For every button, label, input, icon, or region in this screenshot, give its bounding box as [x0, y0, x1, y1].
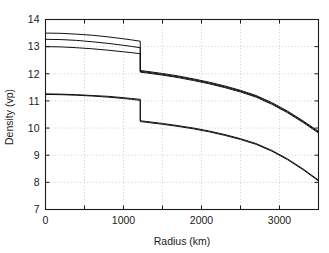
x-tick-label: 0: [43, 214, 49, 226]
y-tick-label: 14: [28, 13, 40, 25]
y-tick-label: 9: [34, 149, 40, 161]
chart-canvas: 78910111213140100020003000 Radius (km) D…: [0, 0, 329, 253]
y-axis-title: Density (vp): [3, 89, 15, 145]
y-tick-label: 10: [28, 122, 40, 134]
x-tick-label: 1000: [112, 214, 136, 226]
y-tick-label: 12: [28, 68, 40, 80]
y-tick-label: 7: [34, 203, 40, 215]
x-tick-label: 3000: [268, 214, 292, 226]
y-tick-label: 13: [28, 40, 40, 52]
x-tick-label: 2000: [190, 214, 214, 226]
y-tick-label: 11: [29, 95, 40, 107]
density-radius-chart: 78910111213140100020003000 Radius (km) D…: [0, 0, 329, 253]
x-axis-title: Radius (km): [154, 235, 211, 247]
y-tick-label: 8: [34, 176, 40, 188]
